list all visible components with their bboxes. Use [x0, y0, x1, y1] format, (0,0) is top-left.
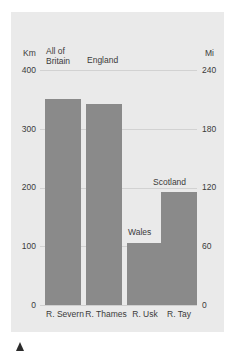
right-tick-180: 180	[202, 124, 227, 134]
bar-r-thames	[86, 104, 122, 305]
left-tick-300: 300	[11, 124, 36, 134]
bar-r-usk	[127, 243, 163, 305]
caption-arrow-icon	[16, 342, 24, 351]
right-tick-120: 120	[202, 182, 227, 192]
left-tick-400: 400	[11, 65, 36, 75]
bar-note-r-thames: England	[87, 56, 118, 66]
left-axis-title: Km	[23, 48, 36, 58]
gridline-0	[40, 305, 197, 306]
left-tick-200: 200	[11, 182, 36, 192]
bar-note-r-usk: Wales	[128, 228, 151, 238]
bar-note-r-tay: Scotland	[153, 178, 186, 188]
left-tick-100: 100	[11, 241, 36, 251]
right-tick-240: 240	[202, 65, 227, 75]
left-tick-0: 0	[11, 300, 36, 310]
bar-chart-figure: Km Mi 400 300 200 100 0 240 180 120 60 0…	[11, 12, 224, 332]
bar-note-r-severn: All of Britain	[46, 47, 70, 66]
right-axis-title: Mi	[205, 48, 214, 58]
gridline-400	[40, 70, 197, 71]
plot-area: All of Britain England Wales Scotland R.…	[40, 70, 197, 305]
bar-r-severn	[45, 99, 81, 305]
right-tick-0: 0	[202, 300, 227, 310]
right-tick-60: 60	[202, 241, 227, 251]
category-label-r-tay: R. Tay	[156, 309, 202, 319]
bar-r-tay	[161, 192, 197, 305]
